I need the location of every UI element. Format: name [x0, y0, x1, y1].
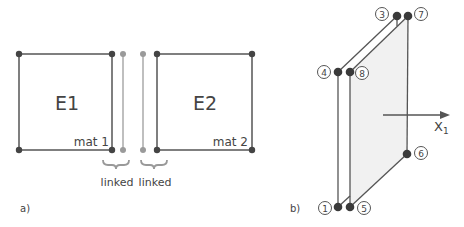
- node-e1-tr: [109, 51, 115, 57]
- node-label-3: 3: [376, 8, 389, 21]
- link-node-2-top: [140, 51, 146, 57]
- node-label-1: 1: [319, 202, 332, 215]
- element-e2-label: E2: [193, 92, 217, 114]
- svg-text:7: 7: [418, 10, 424, 20]
- material-2-label: mat 2: [213, 135, 248, 149]
- link-node-1-bottom: [120, 147, 126, 153]
- svg-text:3: 3: [379, 10, 385, 20]
- linked-label-1: linked: [101, 176, 134, 189]
- svg-text:8: 8: [359, 69, 365, 79]
- node-label-7: 7: [415, 8, 428, 21]
- node-6: [403, 150, 412, 159]
- brace-icon-2: [141, 160, 167, 169]
- svg-text:5: 5: [361, 204, 367, 214]
- node-e2-bl: [154, 147, 160, 153]
- element-e1-label: E1: [55, 92, 79, 114]
- link-node-2-bottom: [140, 147, 146, 153]
- node-8: [346, 68, 355, 77]
- node-label-5: 5: [358, 202, 371, 215]
- figure: E1 mat 1 E2 mat 2 linked linked a): [0, 0, 464, 227]
- panel-b: X1 3 7 4 8 6 1: [290, 8, 450, 215]
- node-e1-bl: [16, 147, 22, 153]
- node-1: [334, 203, 343, 212]
- node-7: [404, 12, 413, 21]
- panel-a-label: a): [20, 203, 30, 214]
- linked-label-2: linked: [139, 176, 172, 189]
- material-1-label: mat 1: [74, 135, 109, 149]
- node-3: [393, 12, 402, 21]
- panel-a: E1 mat 1 E2 mat 2 linked linked a): [16, 51, 255, 214]
- axis-x1-label: X1: [434, 119, 449, 136]
- node-e2-tr: [249, 51, 255, 57]
- node-label-6: 6: [415, 147, 428, 160]
- node-e2-br: [249, 147, 255, 153]
- svg-text:4: 4: [321, 68, 327, 78]
- node-4: [334, 68, 343, 77]
- node-e2-tl: [154, 51, 160, 57]
- svg-text:1: 1: [322, 204, 328, 214]
- axis-arrow-icon: [440, 111, 450, 119]
- svg-text:6: 6: [418, 149, 424, 159]
- node-label-8: 8: [356, 67, 369, 80]
- node-5: [346, 203, 355, 212]
- node-e1-tl: [16, 51, 22, 57]
- brace-icon-1: [103, 160, 129, 169]
- panel-b-label: b): [290, 203, 300, 214]
- node-e1-br: [109, 147, 115, 153]
- link-node-1-top: [120, 51, 126, 57]
- node-label-4: 4: [318, 66, 331, 79]
